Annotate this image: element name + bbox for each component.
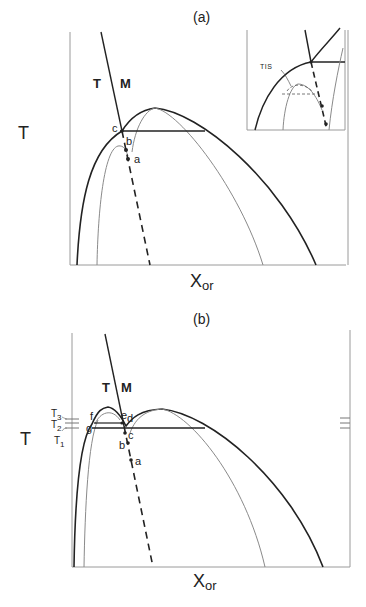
temp-sub: 1	[60, 440, 64, 449]
panel-b-point-b	[126, 441, 130, 445]
x-axis-sub: or	[202, 278, 214, 293]
x-axis-main: X	[190, 271, 202, 291]
panel-b-point-label-a: a	[135, 456, 141, 467]
panel-b-y-axis-label: T	[20, 430, 31, 448]
panel-a-phase-label-T: T	[93, 77, 101, 90]
panel-a-x-axis-label: Xor	[190, 272, 214, 292]
panel-b-light-dome-left	[84, 420, 98, 567]
panel-b-temp-label-T2: T2	[51, 420, 62, 433]
panel-b-light-dome-left-top	[95, 413, 120, 424]
panel-b-point-label-d: d	[127, 413, 133, 424]
panel-a-point-label-a: a	[134, 154, 140, 165]
panel-a-point-b	[124, 148, 128, 152]
panel-a-y-axis-label: T	[18, 124, 29, 142]
panel-a-point-label-c: c	[112, 123, 118, 134]
panel-a-point-c	[120, 129, 124, 133]
panel-b-point-a	[129, 458, 133, 462]
panel-b-title: (b)	[193, 312, 210, 326]
panel-b-point-label-b: b	[119, 440, 125, 451]
panel-a-phase-label-M: M	[120, 77, 131, 90]
panel-a-title: (a)	[193, 10, 210, 24]
panel-b-x-axis-label: Xor	[193, 572, 217, 592]
panel-b-point-e	[120, 421, 123, 424]
panel-b-light-dome-right	[130, 409, 265, 567]
panel-b-temp-label-T1: T1	[54, 436, 65, 449]
panel-b-outer-binodal	[74, 407, 323, 567]
panel-b-point-c	[123, 431, 127, 435]
panel-b-phase-label-T: T	[102, 381, 110, 394]
panel-a-graphics	[0, 0, 366, 607]
x-axis-main: X	[193, 571, 205, 591]
x-axis-sub: or	[205, 578, 217, 593]
panel-b-tm-boundary-dashed	[124, 426, 153, 567]
panel-a-inset	[247, 28, 345, 130]
panel-a-tm-boundary-solid	[101, 32, 122, 131]
panel-a-inset-label: TIS	[260, 63, 272, 70]
panel-b-temperature-ticks-left	[62, 417, 79, 431]
panel-b-point-label-c: c	[128, 430, 134, 441]
panel-b-temperature-ticks-right	[340, 418, 350, 428]
panel-b-point-label-g: g	[86, 423, 92, 434]
panel-a-point-a	[126, 157, 130, 161]
panel-b-point-label-f: f	[90, 411, 93, 422]
panel-a-point-label-b: b	[126, 136, 132, 147]
temp-sub: 2	[57, 424, 61, 433]
panel-b-phase-label-M: M	[121, 381, 132, 394]
panel-a-light-dome-left	[97, 146, 128, 265]
